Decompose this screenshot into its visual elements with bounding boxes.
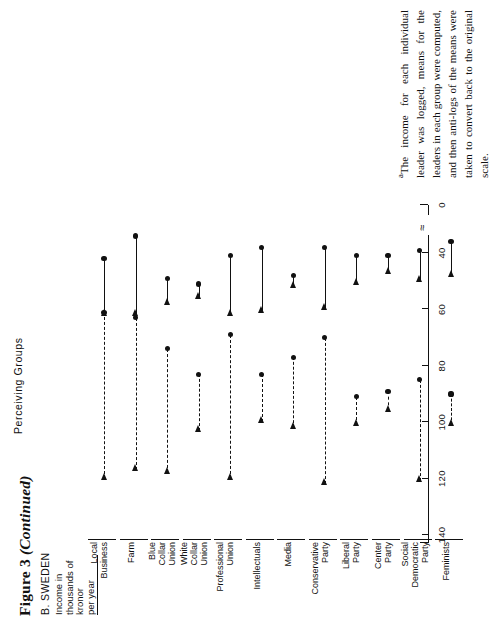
category-axis-rule-3	[183, 539, 211, 540]
axis-tick-label-0: 0	[436, 202, 447, 208]
arrow-shaft	[104, 259, 105, 315]
arrow-shaft	[136, 318, 137, 470]
arrow-endpoint-dot	[165, 276, 170, 281]
arrow-endpoint-dot	[322, 245, 327, 250]
axis-tick-label-40: 40	[436, 247, 447, 258]
axis-tick-100	[422, 421, 428, 422]
axis-break-symbol: ≈	[417, 225, 428, 231]
arrow-head	[321, 478, 327, 485]
arrow-endpoint-dot	[196, 372, 201, 377]
arrow-shaft	[293, 357, 294, 428]
arrow-shaft	[199, 374, 200, 430]
category-axis-rule-8	[340, 539, 368, 540]
arrow-endpoint-dot	[385, 253, 390, 258]
arrow-head	[353, 419, 359, 426]
arrow-head	[227, 309, 233, 316]
arrow-endpoint-dot	[133, 234, 138, 239]
arrow-endpoint-dot	[448, 239, 453, 244]
arrow-shaft	[230, 335, 231, 479]
axis-tick-40	[422, 252, 428, 253]
category-label-text: WhiteCollarUnion	[179, 542, 209, 566]
category-axis-rule-9	[372, 539, 400, 540]
arrow-shaft	[420, 380, 421, 482]
category-label-text: Media	[283, 542, 293, 567]
arrow-endpoint-dot	[448, 391, 453, 396]
footnote-text: The income for each individual leader wa…	[398, 10, 490, 178]
axis-tick-60	[422, 308, 428, 309]
arrow-head	[164, 298, 170, 305]
arrow-head	[132, 309, 138, 316]
category-label-7: ConservativeParty	[310, 542, 330, 628]
category-axis-rule-6	[277, 539, 305, 540]
axis-tick-label-80: 80	[436, 360, 447, 371]
category-axis-rule-10	[404, 539, 432, 540]
arrow-head	[290, 422, 296, 429]
arrow-endpoint-dot	[259, 372, 264, 377]
category-axis-rule-4	[214, 539, 242, 540]
axis-tick-80	[422, 365, 428, 366]
arrow-endpoint-dot	[291, 355, 296, 360]
category-label-1: Farm	[126, 542, 136, 628]
category-label-text: ConservativeParty	[310, 542, 330, 595]
arrow-head	[164, 467, 170, 474]
category-axis-rule-7	[309, 539, 337, 540]
footnote-marker: a	[395, 174, 405, 178]
arrow-endpoint-dot	[259, 245, 264, 250]
arrow-head	[416, 475, 422, 482]
footnote: aThe income for each individual leader w…	[392, 10, 492, 178]
arrow-endpoint-dot	[417, 248, 422, 253]
category-label-11: Feminists	[441, 542, 451, 628]
arrow-endpoint-dot	[385, 389, 390, 394]
category-label-text: BlueCollarUnion	[147, 542, 177, 566]
arrow-head	[416, 275, 422, 282]
axis-tick-label-120: 120	[436, 470, 447, 487]
arrow-head	[353, 278, 359, 285]
category-label-3: WhiteCollarUnion	[179, 542, 209, 628]
arrow-shaft	[325, 338, 326, 485]
category-label-6: Media	[283, 542, 293, 628]
category-label-4: ProfessionalUnion	[215, 542, 235, 628]
arrow-shaft	[136, 236, 137, 315]
arrow-endpoint-dot	[196, 281, 201, 286]
arrow-shaft	[230, 256, 231, 315]
category-label-text: LiberalParty	[341, 542, 361, 569]
arrow-head	[290, 281, 296, 288]
arrow-head	[227, 473, 233, 480]
category-label-text: Intellectuals	[252, 542, 262, 590]
arrow-endpoint-dot	[228, 253, 233, 258]
arrow-endpoint-dot	[165, 346, 170, 351]
axis-tick-120	[422, 478, 428, 479]
arrow-head	[448, 419, 454, 426]
category-label-text: SocialDemocraticParty	[400, 542, 430, 588]
category-label-5: Intellectuals	[252, 542, 262, 628]
category-label-text: CenterParty	[373, 542, 393, 569]
category-axis-rule-1	[120, 539, 148, 540]
arrow-endpoint-dot	[133, 315, 138, 320]
category-axis-rule-5	[246, 539, 274, 540]
arrow-head	[385, 267, 391, 274]
category-label-8: LiberalParty	[341, 542, 361, 628]
arrow-endpoint-dot	[322, 335, 327, 340]
category-label-text: Farm	[126, 542, 136, 563]
axis-tick-label-100: 100	[436, 414, 447, 431]
arrow-endpoint-dot	[101, 256, 106, 261]
axis-tick-label-60: 60	[436, 304, 447, 315]
value-axis-line	[428, 235, 429, 543]
arrow-shaft	[262, 374, 263, 422]
category-label-text: Feminists	[441, 542, 451, 581]
arrow-shaft	[262, 247, 263, 312]
category-label-text: ProfessionalUnion	[215, 542, 235, 592]
arrow-shaft	[325, 247, 326, 309]
arrow-endpoint-dot	[354, 394, 359, 399]
arrow-head	[448, 270, 454, 277]
category-axis-rule-2	[151, 539, 179, 540]
axis-tick-label-140: 140	[436, 527, 447, 544]
arrow-head	[132, 464, 138, 471]
arrow-head	[258, 306, 264, 313]
arrow-head	[195, 292, 201, 299]
category-label-9: CenterParty	[373, 542, 393, 628]
category-label-10: SocialDemocraticParty	[400, 542, 430, 628]
axis-tick-140	[422, 534, 428, 535]
category-axis-rule-11	[435, 539, 463, 540]
